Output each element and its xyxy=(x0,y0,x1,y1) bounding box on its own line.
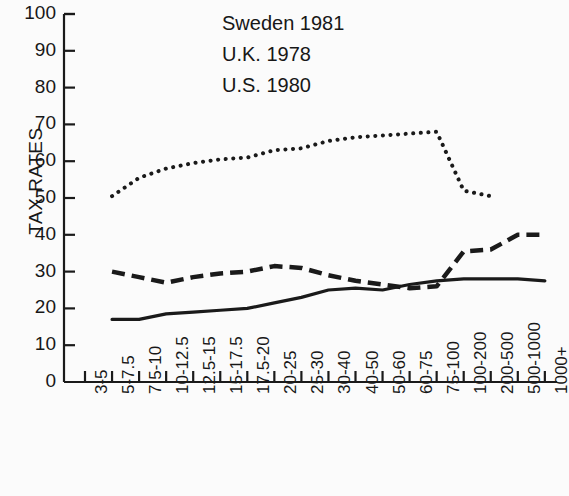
series-lines xyxy=(112,132,545,320)
legend-label-uk: U.K. 1978 xyxy=(222,43,311,66)
legend-swatch-dotted-icon xyxy=(116,17,208,31)
legend-swatch-solid-icon xyxy=(116,79,208,93)
legend-item-sweden: Sweden 1981 xyxy=(116,8,344,39)
series-line xyxy=(112,132,491,196)
tax-rates-chart: TAX RATES 1009080706050403020100 3-55-7.… xyxy=(0,0,569,496)
legend-item-uk: U.K. 1978 xyxy=(116,39,344,70)
legend-item-us: U.S. 1980 xyxy=(116,70,344,101)
legend-swatch-dashed-icon xyxy=(116,48,208,62)
legend: Sweden 1981 U.K. 1978 U.S. 1980 xyxy=(116,8,344,101)
legend-label-sweden: Sweden 1981 xyxy=(222,12,344,35)
legend-label-us: U.S. 1980 xyxy=(222,74,311,97)
series-line xyxy=(112,279,545,319)
